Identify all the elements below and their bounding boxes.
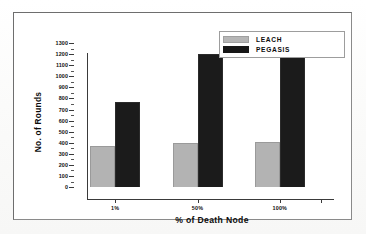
bar-leach-50pct [173, 143, 198, 187]
y-tick-label-wrap: 1300 [32, 40, 68, 46]
y-tick-minor [71, 71, 74, 72]
y-tick-mark [69, 176, 74, 177]
y-tick-mark [69, 76, 74, 77]
y-axis-title: No. of Rounds [33, 77, 43, 167]
y-tick-mark [69, 165, 74, 166]
y-tick-minor [71, 159, 74, 160]
x-tick-mark [198, 199, 199, 203]
legend-label-leach: LEACH [256, 36, 282, 43]
y-tick-mark [69, 87, 74, 88]
bar-pegasis-50pct [198, 54, 223, 187]
y-axis-line [87, 53, 88, 200]
legend-label-pegasis: PEGASIS [256, 46, 290, 53]
y-tick-minor [71, 148, 74, 149]
bar-leach-100pct [255, 142, 280, 187]
y-tick-minor [71, 126, 74, 127]
x-tick-label: 1% [95, 205, 135, 211]
x-tick-mark [115, 199, 116, 203]
y-tick-label-wrap: 0 [32, 184, 68, 190]
x-axis-title: % of Death Node [87, 215, 337, 225]
y-tick-minor [71, 60, 74, 61]
y-tick-minor [71, 82, 74, 83]
y-tick-label-wrap: 100 [32, 173, 68, 179]
black-swatch-icon [223, 46, 249, 53]
y-tick-minor [71, 182, 74, 183]
x-axis-line [87, 199, 334, 200]
y-tick-minor [71, 104, 74, 105]
y-tick-label: 1200 [34, 51, 68, 57]
y-tick-label: 0 [34, 184, 68, 190]
y-tick-mark [69, 154, 74, 155]
y-tick-minor [71, 137, 74, 138]
bar-pegasis-100pct [280, 49, 305, 188]
y-tick-minor [71, 93, 74, 94]
y-tick-minor [71, 115, 74, 116]
y-tick-label-wrap: 1100 [32, 62, 68, 68]
y-tick-label: 100 [34, 173, 68, 179]
figure-root: 0100200300400500600700800900100011001200… [0, 0, 366, 234]
x-tick-mark-end [321, 199, 322, 203]
y-tick-mark [69, 43, 74, 44]
y-tick-label-wrap: 1200 [32, 51, 68, 57]
y-tick-minor [71, 170, 74, 171]
y-tick-label: 1100 [34, 62, 68, 68]
y-tick-mark [69, 98, 74, 99]
y-tick-mark [69, 110, 74, 111]
y-tick-mark [69, 54, 74, 55]
y-tick-mark [69, 187, 74, 188]
legend-item-pegasis: PEGASIS [223, 45, 341, 54]
chart-legend: LEACH PEGASIS [219, 31, 345, 58]
gray-swatch-icon [223, 36, 249, 43]
bar-pegasis-1pct [115, 102, 140, 187]
y-tick-mark [69, 143, 74, 144]
chart-frame: 0100200300400500600700800900100011001200… [13, 12, 352, 220]
x-tick-mark [280, 199, 281, 203]
y-tick-label: 1300 [34, 40, 68, 46]
x-tick-label: 100% [260, 205, 300, 211]
bar-leach-1pct [90, 146, 115, 187]
y-tick-mark [69, 121, 74, 122]
y-tick-mark [69, 132, 74, 133]
y-tick-minor [71, 49, 74, 50]
x-tick-label: 50% [178, 205, 218, 211]
legend-item-leach: LEACH [223, 35, 341, 44]
y-tick-mark [69, 65, 74, 66]
